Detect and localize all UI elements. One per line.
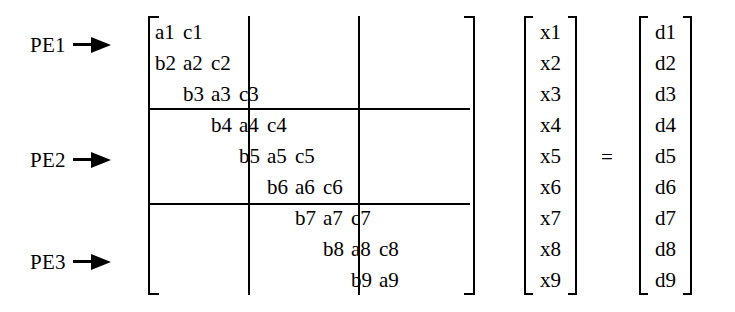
pe-marker-2: PE2 — [30, 147, 111, 173]
matrix-cell: b6 — [267, 172, 295, 203]
matrix-cell: b7 — [295, 203, 323, 234]
partition-line-vertical-2 — [358, 16, 360, 295]
partition-line-horizontal-2 — [148, 203, 470, 205]
matrix-row: a1c1 — [155, 17, 211, 48]
vector-x-entry: x4 — [524, 110, 577, 141]
matrix-cell: b9 — [351, 265, 379, 296]
vector-d-entry: d1 — [639, 17, 692, 48]
figure-canvas: PE1 PE2 PE3 a1c1b2a2c2b3a3c3b4a4c4b5a5c5… — [0, 0, 735, 312]
matrix-cell: b5 — [239, 141, 267, 172]
pe-label-2: PE2 — [30, 147, 66, 173]
matrix-cell: b2 — [155, 48, 183, 79]
pe-marker-3: PE3 — [30, 249, 111, 275]
matrix-cell: a8 — [351, 234, 379, 265]
matrix-cell: a7 — [323, 203, 351, 234]
matrix-cell: c2 — [211, 48, 239, 79]
matrix-row: b7a7c7 — [295, 203, 379, 234]
matrix-bracket-right — [464, 16, 475, 295]
matrix-cell: c8 — [379, 234, 407, 265]
matrix-cell: c4 — [267, 110, 295, 141]
rhs-vector-d: d1d2d3d4d5d6d7d8d9 — [639, 16, 692, 295]
equals-sign: = — [596, 142, 618, 173]
matrix-cell: b3 — [183, 79, 211, 110]
matrix-row: b6a6c6 — [267, 172, 351, 203]
vector-x-entry: x9 — [524, 265, 577, 296]
matrix-row: b4a4c4 — [211, 110, 295, 141]
matrix-cell: b8 — [323, 234, 351, 265]
matrix-cell: a5 — [267, 141, 295, 172]
matrix-cell: c3 — [239, 79, 267, 110]
matrix-cell: c6 — [323, 172, 351, 203]
matrix-cell: a6 — [295, 172, 323, 203]
pe-label-1: PE1 — [30, 32, 66, 58]
matrix-row: b8a8c8 — [323, 234, 407, 265]
matrix-row: b2a2c2 — [155, 48, 239, 79]
pe-label-3: PE3 — [30, 249, 66, 275]
vector-x-entry: x2 — [524, 48, 577, 79]
vector-d-entry: d6 — [639, 172, 692, 203]
matrix-row: b5a5c5 — [239, 141, 323, 172]
matrix-cell: a1 — [155, 17, 183, 48]
matrix-cell: a2 — [183, 48, 211, 79]
matrix-cell: c1 — [183, 17, 211, 48]
vector-d-entry: d3 — [639, 79, 692, 110]
pe-marker-1: PE1 — [30, 32, 111, 58]
vector-d-entry: d2 — [639, 48, 692, 79]
partition-line-vertical-1 — [248, 16, 250, 295]
vector-x-entry: x8 — [524, 234, 577, 265]
vector-d-entry: d8 — [639, 234, 692, 265]
vector-d-entry: d5 — [639, 141, 692, 172]
arrow-right-icon — [73, 254, 111, 270]
matrix-cell: a9 — [379, 265, 407, 296]
solution-vector-x: x1x2x3x4x5x6x7x8x9 — [524, 16, 577, 295]
matrix-cell: a4 — [239, 110, 267, 141]
matrix-cell: a3 — [211, 79, 239, 110]
vector-x-entry: x1 — [524, 17, 577, 48]
matrix-row: b3a3c3 — [183, 79, 267, 110]
vector-d-entry: d7 — [639, 203, 692, 234]
matrix-cell: b4 — [211, 110, 239, 141]
vector-x-entry: x5 — [524, 141, 577, 172]
arrow-right-icon — [73, 152, 111, 168]
arrow-right-icon — [73, 37, 111, 53]
vector-d-entry: d4 — [639, 110, 692, 141]
vector-x-entry: x7 — [524, 203, 577, 234]
matrix-cell: c7 — [351, 203, 379, 234]
partition-line-horizontal-1 — [148, 108, 470, 110]
vector-d-entry: d9 — [639, 265, 692, 296]
coefficient-matrix: a1c1b2a2c2b3a3c3b4a4c4b5a5c5b6a6c6b7a7c7… — [148, 16, 475, 295]
vector-x-entry: x6 — [524, 172, 577, 203]
vector-x-entry: x3 — [524, 79, 577, 110]
matrix-cell: c5 — [295, 141, 323, 172]
